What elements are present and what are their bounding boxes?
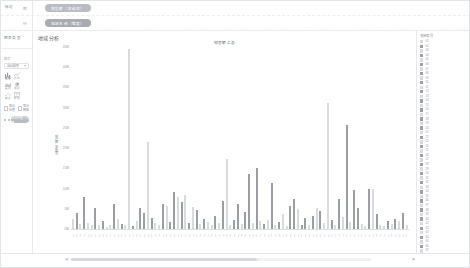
bar[interactable] — [184, 195, 186, 229]
bar[interactable] — [286, 226, 288, 229]
bar[interactable] — [158, 225, 160, 229]
checkbox-show-labels[interactable]: 显示标签 — [4, 104, 15, 112]
shelf-row-rows[interactable]: 行 地域名称（维度） — [1, 16, 470, 31]
bar[interactable] — [402, 213, 404, 229]
bar[interactable] — [154, 223, 156, 229]
bar[interactable] — [364, 226, 366, 229]
bar[interactable] — [117, 219, 119, 229]
scroll-right-icon[interactable]: ▶ — [412, 257, 415, 261]
bar[interactable] — [143, 213, 145, 229]
bar[interactable] — [98, 225, 100, 229]
bar[interactable] — [391, 224, 393, 229]
bar[interactable] — [72, 219, 74, 230]
bar[interactable] — [346, 125, 348, 229]
bar[interactable] — [372, 189, 374, 229]
bar[interactable] — [226, 159, 228, 229]
bar[interactable] — [203, 219, 205, 230]
field-pill-measure[interactable]: 销售额（求和项） — [45, 4, 91, 12]
bar[interactable] — [169, 222, 171, 229]
bar[interactable] — [136, 221, 138, 229]
scrollbar-thumb[interactable] — [71, 258, 257, 261]
bar[interactable] — [166, 206, 168, 229]
bar[interactable] — [278, 222, 280, 229]
scroll-left-icon[interactable]: ◀ — [65, 257, 68, 261]
bar[interactable] — [323, 223, 325, 229]
bar[interactable] — [199, 224, 201, 229]
mark-type-area[interactable]: 面积 — [4, 82, 12, 91]
bar[interactable] — [214, 216, 216, 229]
bar[interactable] — [263, 224, 265, 229]
bar[interactable] — [376, 214, 378, 229]
bar[interactable] — [102, 221, 104, 229]
bar[interactable] — [274, 225, 276, 229]
mark-type-pie[interactable]: 饼图 — [13, 82, 21, 91]
bar[interactable] — [87, 223, 89, 229]
bar[interactable] — [394, 219, 396, 230]
bar[interactable] — [383, 226, 385, 229]
bar[interactable] — [304, 218, 306, 229]
bar[interactable] — [128, 49, 130, 229]
bar[interactable] — [357, 208, 359, 229]
bar[interactable] — [233, 220, 235, 229]
bar[interactable] — [162, 204, 164, 229]
bar[interactable] — [282, 214, 284, 229]
bar[interactable] — [327, 103, 329, 229]
bar[interactable] — [398, 221, 400, 229]
bar[interactable] — [244, 212, 246, 229]
mark-type-bar[interactable]: 柱形 — [4, 72, 12, 81]
bar[interactable] — [121, 224, 123, 229]
checkbox-show-grid[interactable]: 显示网格 — [18, 104, 29, 112]
bar[interactable] — [79, 224, 81, 229]
bar[interactable] — [248, 174, 250, 229]
bar[interactable] — [338, 199, 340, 229]
bar[interactable] — [211, 225, 213, 229]
bar[interactable] — [252, 223, 254, 229]
bar[interactable] — [334, 225, 336, 229]
bar[interactable] — [387, 221, 389, 229]
bar[interactable] — [406, 225, 408, 229]
bar[interactable] — [91, 225, 93, 229]
bar[interactable] — [379, 225, 381, 229]
bar[interactable] — [353, 190, 355, 229]
bar[interactable] — [109, 225, 111, 229]
bar[interactable] — [222, 201, 224, 229]
bar[interactable] — [319, 211, 321, 229]
bar[interactable] — [368, 189, 370, 229]
bar[interactable] — [151, 218, 153, 229]
field-pill-dimension[interactable]: 地域名称（维度） — [45, 19, 91, 27]
bar[interactable] — [237, 204, 239, 229]
mark-type-table[interactable]: 表格 — [13, 92, 21, 101]
bar[interactable] — [177, 197, 179, 229]
bar[interactable] — [256, 168, 258, 229]
bar[interactable] — [267, 220, 269, 229]
bar[interactable] — [196, 210, 198, 229]
mark-type-scatter[interactable]: 散点 — [4, 92, 12, 101]
bar[interactable] — [293, 199, 295, 229]
bar[interactable] — [308, 225, 310, 229]
color-scheme-select[interactable]: 自动配色 — [4, 63, 29, 69]
bar[interactable] — [271, 183, 273, 229]
bar[interactable] — [218, 223, 220, 229]
bar[interactable] — [124, 225, 126, 229]
bar[interactable] — [173, 192, 175, 229]
bar[interactable] — [331, 220, 333, 229]
bar[interactable] — [188, 223, 190, 229]
shelf-row-columns[interactable]: 列 销售额（求和项） — [1, 1, 470, 16]
bar[interactable] — [113, 204, 115, 229]
bar[interactable] — [312, 216, 314, 229]
bar[interactable] — [349, 222, 351, 229]
bar[interactable] — [181, 202, 183, 230]
bar[interactable] — [139, 208, 141, 229]
bar[interactable] — [94, 208, 96, 229]
bar[interactable] — [316, 208, 318, 229]
apply-button[interactable]: 应用到整个视图 — [11, 116, 29, 123]
bar-slot[interactable] — [405, 47, 409, 229]
bar[interactable] — [229, 225, 231, 229]
horizontal-scrollbar[interactable] — [71, 258, 371, 261]
bar[interactable] — [259, 221, 261, 229]
bar[interactable] — [106, 227, 108, 229]
bar[interactable] — [147, 142, 149, 229]
bar[interactable] — [241, 224, 243, 229]
bar[interactable] — [289, 206, 291, 229]
bar[interactable] — [342, 217, 344, 229]
